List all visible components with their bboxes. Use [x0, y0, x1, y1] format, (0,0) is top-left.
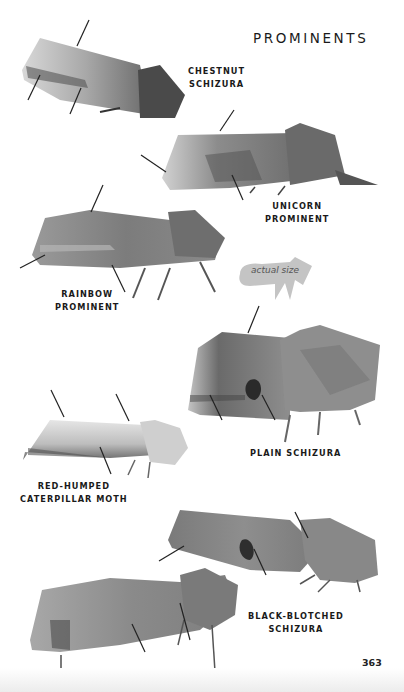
label-rainbow-prominent: RAINBOW PROMINENT	[55, 288, 119, 314]
moth-chestnut-schizura	[22, 38, 185, 118]
page-bottom-shadow	[0, 668, 404, 692]
label-plain-schizura: PLAIN SCHIZURA	[250, 447, 341, 460]
actual-size-label: actual size	[245, 265, 305, 275]
label-chestnut-schizura: CHESTNUT SCHIZURA	[188, 65, 245, 91]
actual-size-silhouette	[239, 257, 312, 300]
label-unicorn-prominent: UNICORN PROMINENT	[265, 200, 329, 226]
field-guide-page: PROMINENTS actual size CHESTNUT SCHIZURA…	[0, 0, 404, 692]
moth-plain-schizura	[188, 325, 380, 442]
moth-unicorn-prominent	[162, 123, 378, 195]
moth-rainbow-prominent	[32, 210, 225, 300]
page-title: PROMINENTS	[253, 30, 368, 46]
moth-illustrations	[0, 0, 404, 692]
label-red-humped-caterpillar-moth: RED-HUMPED CATERPILLAR MOTH	[20, 480, 128, 506]
label-black-blotched-schizura: BLACK-BLOTCHED SCHIZURA	[248, 610, 344, 636]
page-number: 363	[362, 657, 382, 668]
moth-red-humped-caterpillar	[23, 420, 188, 478]
